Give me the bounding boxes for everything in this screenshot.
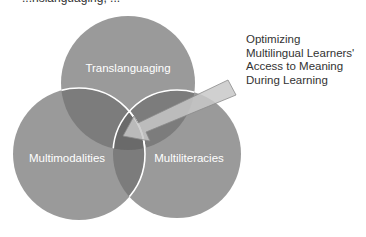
callout-text: Optimizing Multilingual Learners' Access… bbox=[246, 33, 354, 87]
callout-line: During Learning bbox=[246, 74, 354, 88]
callout-line: Optimizing bbox=[246, 33, 354, 47]
callout-line: Multilingual Learners' bbox=[246, 47, 354, 61]
label-multimodalities: Multimodalities bbox=[29, 152, 105, 164]
label-multiliteracies: Multiliteracies bbox=[154, 152, 224, 164]
label-translanguaging: Translanguaging bbox=[85, 62, 170, 74]
callout-line: Access to Meaning bbox=[246, 60, 354, 74]
